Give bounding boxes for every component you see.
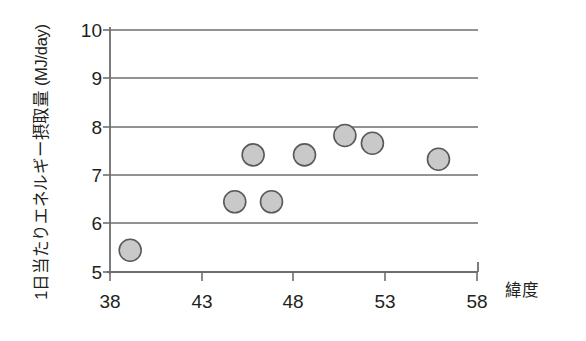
- data-point: [260, 191, 282, 213]
- x-tick-marks: [110, 272, 477, 281]
- axes-lines: [107, 27, 478, 274]
- data-point: [334, 125, 356, 147]
- data-point: [242, 144, 264, 166]
- data-points: [119, 125, 449, 262]
- data-point: [294, 144, 316, 166]
- y-tick-marks: [103, 30, 110, 272]
- scatter-chart: 1日当たりエネルギー摂取量 (MJ/day) 緯度 10 9 8 7 6 5 3…: [0, 0, 586, 341]
- data-point: [361, 132, 383, 154]
- gridlines: [110, 30, 478, 223]
- plot-area: [0, 0, 586, 341]
- data-point: [427, 148, 449, 170]
- data-point: [224, 191, 246, 213]
- data-point: [119, 239, 141, 261]
